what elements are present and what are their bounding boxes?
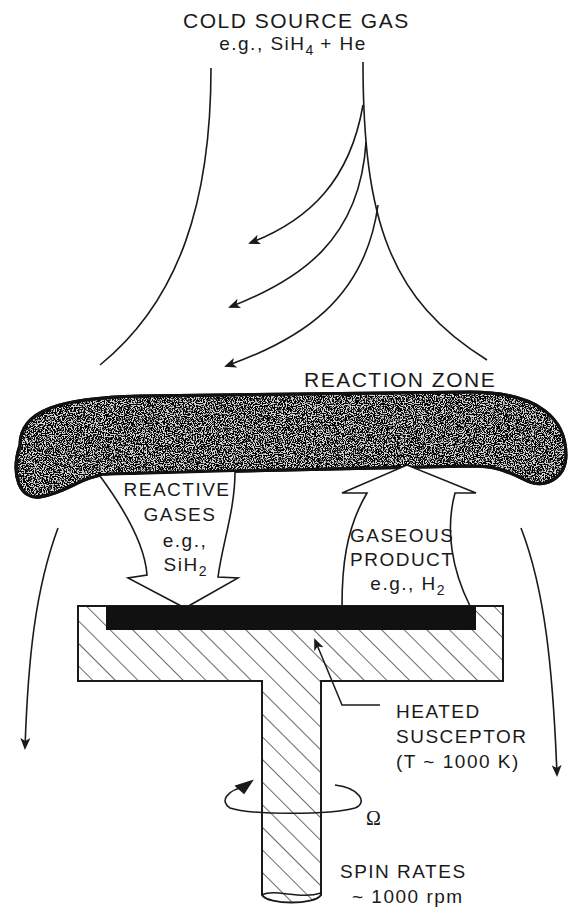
susceptor-line2: SUSCEPTOR — [396, 727, 527, 746]
reactive-gases-line3: e.g., — [140, 531, 230, 550]
source-gas-example: e.g., SiH4 + He — [183, 34, 403, 57]
source-gas-stream — [100, 62, 487, 365]
reaction-zone — [16, 392, 566, 497]
source-gas-prefix: e.g., SiH — [219, 33, 305, 54]
product-example-sub: 2 — [437, 582, 445, 598]
gaseous-product-line2: PRODUCT — [350, 550, 450, 569]
gaseous-product-line1: GASEOUS — [350, 526, 450, 545]
source-gas-title: COLD SOURCE GAS — [183, 10, 403, 31]
source-gas-suffix: + He — [313, 33, 366, 54]
reactive-gases-line2: GASES — [130, 505, 230, 524]
spin-rates-line1: SPIN RATES — [340, 862, 467, 881]
spin-rates-line2: ~ 1000 rpm — [352, 887, 464, 906]
reactive-gases-formula: SiH2 — [140, 555, 230, 578]
gaseous-product-example: e.g., H2 — [360, 574, 455, 597]
susceptor-line3: (T ~ 1000 K) — [396, 752, 520, 771]
omega-symbol: Ω — [366, 808, 382, 828]
inflow-arrows — [226, 105, 378, 366]
wafer — [106, 606, 476, 630]
cvd-diagram: COLD SOURCE GAS e.g., SiH4 + He REACTION… — [0, 0, 576, 916]
product-example-text: e.g., H — [370, 573, 436, 594]
reaction-zone-label: REACTION ZONE — [304, 369, 496, 390]
susceptor-line1: HEATED — [396, 702, 481, 721]
reactive-formula-text: SiH — [164, 554, 199, 575]
reactive-formula-sub: 2 — [199, 563, 207, 579]
diagram-graphics — [0, 0, 576, 916]
reactive-gases-line1: REACTIVE — [118, 480, 236, 499]
